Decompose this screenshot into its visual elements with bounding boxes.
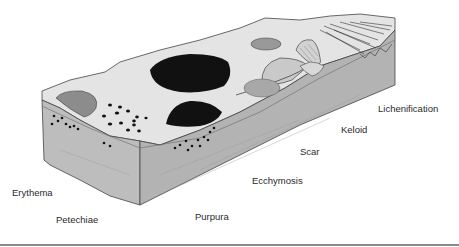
skin-block-illustration [0,0,459,247]
bottom-divider [0,244,459,246]
skin-lesion-diagram: Erythema Petechiae Purpura Ecchymosis Sc… [0,0,459,247]
scar-lesion-oval [251,38,281,50]
label-scar: Scar [300,146,320,157]
label-erythema: Erythema [12,187,53,198]
label-lichenification: Lichenification [378,103,438,114]
label-purpura: Purpura [195,211,229,222]
label-keloid: Keloid [341,124,367,135]
label-petechiae: Petechiae [56,214,98,225]
label-ecchymosis: Ecchymosis [252,175,303,186]
